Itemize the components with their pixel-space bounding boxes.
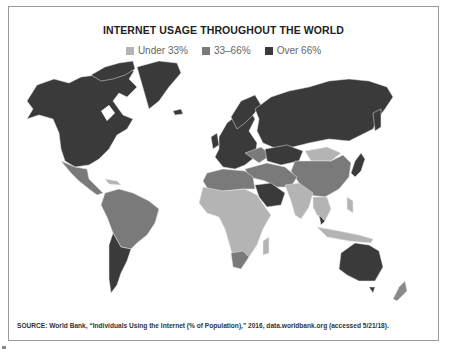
figure-frame: INTERNET USAGE THROUGHOUT THE WORLD Unde… <box>8 6 439 341</box>
legend-swatch-high <box>265 47 273 55</box>
region-madagascar <box>263 237 269 255</box>
legend-item-high: Over 66% <box>265 45 321 56</box>
region-kamchatka <box>373 109 381 131</box>
region-russia <box>255 79 393 149</box>
region-japan <box>351 153 365 177</box>
region-indonesia <box>317 227 373 243</box>
region-australia <box>339 243 383 281</box>
map-title: INTERNET USAGE THROUGHOUT THE WORLD <box>9 24 438 36</box>
legend-swatch-mid <box>202 47 210 55</box>
world-map <box>9 57 440 319</box>
legend-swatch-low <box>126 47 134 55</box>
region-iceland <box>173 109 183 115</box>
legend-label-high: Over 66% <box>277 45 321 56</box>
region-north-america <box>27 67 137 167</box>
region-new-zealand <box>393 281 407 301</box>
legend-item-mid: 33–66% <box>202 45 251 56</box>
region-uk <box>211 133 219 149</box>
region-southeast-asia <box>313 197 331 221</box>
legend: Under 33% 33–66% Over 66% <box>9 45 438 56</box>
region-south-america <box>101 189 159 249</box>
region-tasmania <box>369 287 375 293</box>
corner-mark <box>2 346 6 349</box>
region-greenland <box>137 61 181 109</box>
legend-item-low: Under 33% <box>126 45 188 56</box>
legend-label-low: Under 33% <box>138 45 188 56</box>
region-caribbean <box>105 179 121 185</box>
source-note: SOURCE: World Bank, “Individuals Using t… <box>17 322 389 329</box>
region-philippines <box>347 197 353 213</box>
legend-label-mid: 33–66% <box>214 45 251 56</box>
